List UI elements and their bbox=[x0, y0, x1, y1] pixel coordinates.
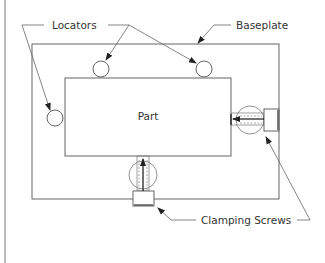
part-label: Part bbox=[138, 110, 159, 122]
baseplate-label: Baseplate bbox=[236, 19, 288, 31]
clamp-bottom-screw-head bbox=[133, 191, 154, 206]
clamping-screws-leader-right bbox=[266, 137, 310, 220]
fixture-diagram: Part Locators Baseplate Clamping Screws bbox=[0, 0, 325, 263]
locators-label: Locators bbox=[52, 19, 97, 31]
baseplate-leader bbox=[198, 25, 231, 43]
clamp-right-screw-head bbox=[264, 109, 279, 131]
clamping-screws-label: Clamping Screws bbox=[201, 214, 291, 226]
locator-left bbox=[47, 110, 63, 126]
clamping-screws-leader-bottom bbox=[158, 208, 196, 220]
clamp-bottom bbox=[129, 156, 157, 206]
locators-leader-left bbox=[22, 25, 50, 110]
clamp-right bbox=[231, 106, 279, 134]
locator-top-right bbox=[196, 61, 212, 77]
locators-leader-top-left bbox=[106, 25, 129, 60]
locator-top-left bbox=[93, 61, 109, 77]
clamp-right-swivel bbox=[236, 106, 264, 134]
